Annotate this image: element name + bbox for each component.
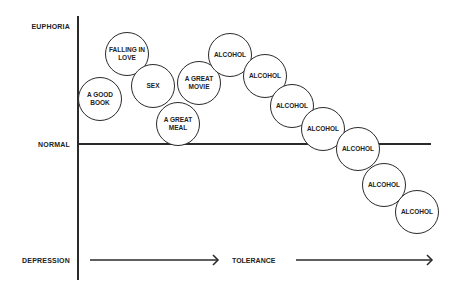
- arrow-left-segment-icon: [0, 0, 462, 296]
- label-tolerance: TOLERANCE: [232, 257, 275, 264]
